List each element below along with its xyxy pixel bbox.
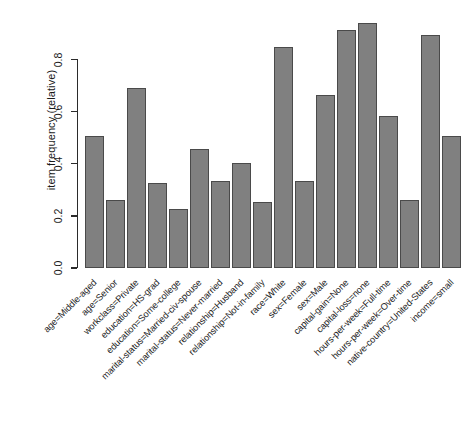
bar[interactable] xyxy=(148,183,166,268)
y-axis-tick-mark xyxy=(71,215,77,216)
y-axis-tick-label: 0.0 xyxy=(51,256,65,280)
bar[interactable] xyxy=(232,163,250,269)
bar[interactable] xyxy=(421,35,439,268)
bar[interactable] xyxy=(85,136,103,268)
y-axis-tick-label: 0.4 xyxy=(51,152,65,176)
bar[interactable] xyxy=(400,200,418,268)
y-axis-line xyxy=(77,59,78,268)
bar[interactable] xyxy=(127,88,145,268)
y-axis-tick-mark xyxy=(71,267,77,268)
y-axis-tick-mark xyxy=(71,59,77,60)
bar[interactable] xyxy=(106,200,124,268)
bar[interactable] xyxy=(190,149,208,268)
y-axis-tick-label: 0.2 xyxy=(51,204,65,228)
bar[interactable] xyxy=(316,95,334,268)
bar-chart: item frequency (relative) 0.00.20.40.60.… xyxy=(0,0,474,423)
bar[interactable] xyxy=(358,23,376,268)
bar[interactable] xyxy=(379,116,397,268)
bar[interactable] xyxy=(337,30,355,268)
bar[interactable] xyxy=(442,136,460,268)
y-axis-tick-label-wrap: 0.2 xyxy=(40,209,70,223)
y-axis-tick-label-wrap: 0.4 xyxy=(40,157,70,171)
y-axis-tick-mark xyxy=(71,163,77,164)
y-axis-tick-label-wrap: 0.0 xyxy=(40,261,70,275)
bar[interactable] xyxy=(211,181,229,268)
y-axis-tick-mark xyxy=(71,111,77,112)
y-axis-tick-label-wrap: 0.8 xyxy=(40,53,70,67)
plot-area xyxy=(84,14,462,268)
y-axis-tick-label: 0.6 xyxy=(51,100,65,124)
bar[interactable] xyxy=(169,209,187,268)
y-axis-tick-label: 0.8 xyxy=(51,48,65,72)
bar[interactable] xyxy=(253,202,271,268)
bar[interactable] xyxy=(274,47,292,268)
bar[interactable] xyxy=(295,181,313,268)
y-axis-tick-label-wrap: 0.6 xyxy=(40,105,70,119)
